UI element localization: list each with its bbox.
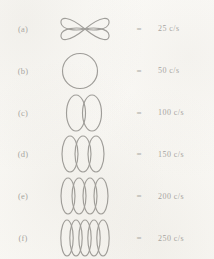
frequency-value-c: 100 c/s (154, 108, 214, 117)
equals-sign: = (124, 191, 154, 201)
pattern-three-loop-lissajous (46, 133, 124, 175)
frequency-value-b: 50 c/s (154, 66, 214, 75)
pattern-two-loop-lissajous (46, 92, 124, 134)
frequency-value-e: 200 c/s (154, 192, 214, 201)
row-label-e: (e) (0, 191, 46, 201)
frequency-value-d: 150 c/s (154, 150, 214, 159)
pattern-figure-eight-lissajous (46, 8, 124, 50)
equals-sign: = (124, 24, 154, 34)
equals-sign: = (124, 149, 154, 159)
row-label-a: (a) (0, 24, 46, 34)
row-label-d: (d) (0, 149, 46, 159)
row-label-f: (f) (0, 233, 46, 243)
frequency-value-f: 250 c/s (154, 234, 214, 243)
pattern-five-loop-lissajous (46, 217, 124, 259)
figure-row: (a) = 25 c/s (0, 8, 214, 50)
figure-row: (b) = 50 c/s (0, 50, 214, 92)
equals-sign: = (124, 108, 154, 118)
figure-row: (e) = 200 c/s (0, 175, 214, 217)
lissajous-figure-table: (a) = 25 c/s (b) = 50 c/s (c) = (0, 0, 214, 259)
pattern-four-loop-lissajous (46, 175, 124, 217)
equals-sign: = (124, 233, 154, 243)
figure-row: (f) = 250 c/s (0, 217, 214, 259)
row-label-c: (c) (0, 108, 46, 118)
frequency-value-a: 25 c/s (154, 24, 214, 33)
equals-sign: = (124, 66, 154, 76)
pattern-circle-lissajous (46, 50, 124, 92)
figure-row: (c) = 100 c/s (0, 92, 214, 134)
row-label-b: (b) (0, 66, 46, 76)
figure-row: (d) = 150 c/s (0, 133, 214, 175)
